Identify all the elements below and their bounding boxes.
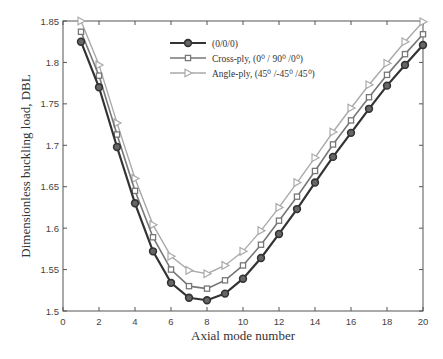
square-marker-icon	[114, 132, 119, 137]
circle-marker-icon	[240, 275, 247, 282]
x-tick-label: 10	[238, 316, 249, 327]
square-marker-icon	[240, 263, 245, 268]
circle-marker-icon	[348, 129, 355, 136]
x-axis-title: Axial mode number	[191, 328, 296, 343]
circle-marker-icon	[186, 294, 193, 301]
circle-marker-icon	[366, 105, 373, 112]
x-tick-label: 2	[96, 316, 101, 327]
circle-marker-icon	[114, 144, 121, 151]
square-marker-icon	[186, 284, 191, 289]
y-tick-label: 1.7	[46, 140, 59, 151]
square-marker-icon	[222, 278, 227, 283]
circle-marker-icon	[312, 179, 319, 186]
triangle-marker-icon	[330, 128, 337, 136]
square-marker-icon	[150, 235, 155, 240]
square-marker-icon	[294, 194, 299, 199]
x-tick-label: 4	[132, 316, 137, 327]
circle-marker-icon	[185, 40, 192, 47]
circle-marker-icon	[150, 248, 157, 255]
square-marker-icon	[330, 142, 335, 147]
square-marker-icon	[348, 118, 353, 123]
y-tick-label: 1.75	[41, 98, 60, 109]
y-tick-label: 1.6	[46, 223, 59, 234]
y-tick-label: 1.8	[46, 57, 59, 68]
circle-marker-icon	[132, 200, 139, 207]
y-tick-label: 1.65	[41, 181, 60, 192]
square-marker-icon	[366, 95, 371, 100]
legend-label: Cross-ply, (0⁰ / 90⁰ /0⁰)	[212, 54, 303, 65]
square-marker-icon	[185, 55, 190, 60]
legend-label: (0/0/0)	[212, 39, 238, 50]
circle-marker-icon	[402, 62, 409, 69]
square-marker-icon	[402, 52, 407, 57]
legend: (0/0/0)Cross-ply, (0⁰ / 90⁰ /0⁰)Angle-pl…	[170, 39, 315, 80]
triangle-marker-icon	[312, 154, 319, 162]
triangle-marker-icon	[186, 267, 193, 275]
circle-marker-icon	[330, 153, 337, 160]
circle-marker-icon	[204, 297, 211, 304]
x-tick-label: 20	[418, 316, 429, 327]
x-tick-label: 6	[168, 316, 173, 327]
square-marker-icon	[96, 73, 101, 78]
circle-marker-icon	[222, 290, 229, 297]
y-tick-label: 1.55	[41, 264, 60, 275]
circle-marker-icon	[168, 279, 175, 286]
triangle-marker-icon	[294, 179, 301, 187]
y-axis-title: Dimensionless buckling load, DBL	[18, 74, 33, 257]
circle-marker-icon	[276, 231, 283, 238]
x-tick-label: 12	[274, 316, 285, 327]
circle-marker-icon	[420, 42, 427, 49]
buckling-load-chart: 024681012141618201.51.551.61.651.71.751.…	[0, 0, 443, 359]
circle-marker-icon	[96, 84, 103, 91]
x-tick-label: 8	[204, 316, 209, 327]
triangle-marker-icon	[348, 104, 355, 112]
triangle-marker-icon	[276, 204, 283, 212]
x-tick-label: 18	[382, 316, 393, 327]
square-marker-icon	[204, 286, 209, 291]
circle-marker-icon	[294, 206, 301, 213]
square-marker-icon	[258, 242, 263, 247]
y-tick-label: 1.5	[46, 306, 59, 317]
x-tick-label: 16	[346, 316, 357, 327]
y-tick-label: 1.85	[41, 16, 60, 27]
square-marker-icon	[132, 188, 137, 193]
x-tick-label: 14	[310, 316, 321, 327]
square-marker-icon	[384, 72, 389, 77]
circle-marker-icon	[258, 255, 265, 262]
circle-marker-icon	[78, 38, 85, 45]
triangle-marker-icon	[204, 270, 211, 278]
circle-marker-icon	[384, 82, 391, 89]
square-marker-icon	[276, 218, 281, 223]
square-marker-icon	[420, 32, 425, 37]
square-marker-icon	[312, 168, 317, 173]
triangle-marker-icon	[150, 221, 157, 229]
square-marker-icon	[168, 267, 173, 272]
square-marker-icon	[78, 29, 83, 34]
x-tick-label: 0	[60, 316, 65, 327]
triangle-marker-icon	[185, 69, 192, 77]
triangle-marker-icon	[258, 227, 265, 235]
legend-label: Angle-ply, (45⁰ /-45⁰ /45⁰)	[212, 69, 315, 80]
